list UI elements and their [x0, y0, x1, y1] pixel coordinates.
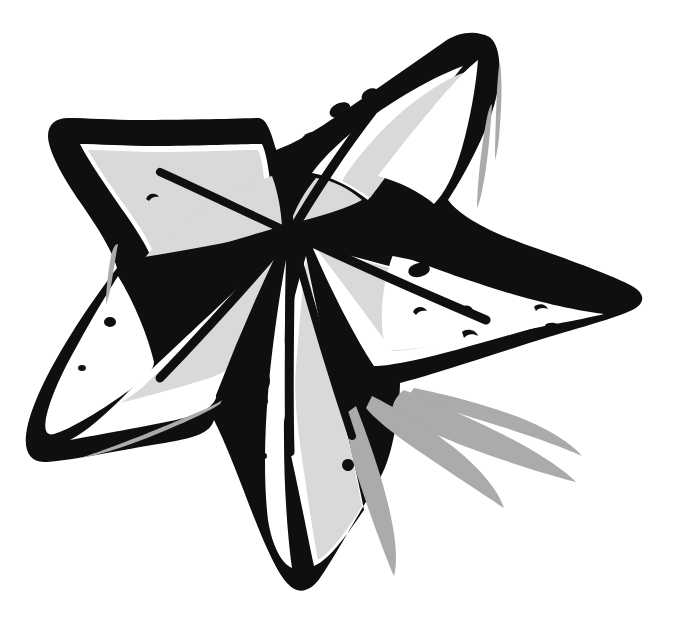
speckle-lowleft-1 — [145, 278, 161, 292]
center-hub — [283, 225, 299, 241]
starfish-illustration: Starfish Cartoon five-armed starfish dra… — [0, 0, 678, 630]
ridge-to-bottom-tip — [289, 233, 291, 452]
speckle-lowleft-5 — [261, 453, 267, 459]
speckle-lowleft-3 — [78, 365, 86, 371]
speckle-lowleft-2 — [104, 317, 116, 327]
speckle-lowleft-4 — [260, 415, 266, 421]
speckle-bottom-1 — [260, 372, 270, 390]
speckle-bottom-2 — [260, 397, 268, 405]
artboard: Starfish Cartoon five-armed starfish dra… — [0, 0, 678, 630]
